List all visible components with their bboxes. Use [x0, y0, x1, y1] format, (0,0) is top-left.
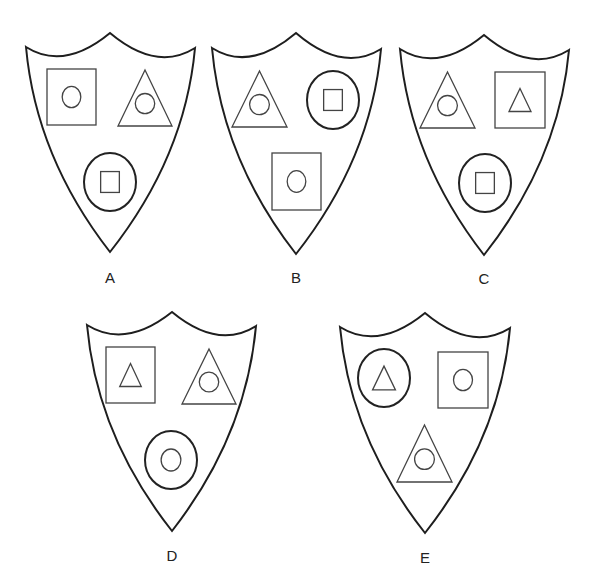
shield-outline: [212, 33, 381, 254]
option-label: B: [291, 269, 301, 286]
shield-outline: [26, 33, 195, 252]
option-label: D: [167, 547, 178, 564]
option-label: A: [105, 269, 115, 286]
shield-outline: [87, 312, 256, 531]
option-label: C: [479, 270, 490, 287]
shield-option-c[interactable]: C: [400, 35, 569, 287]
shield-option-d[interactable]: D: [87, 312, 256, 564]
shield-option-e[interactable]: E: [340, 313, 510, 566]
option-label: E: [420, 549, 430, 566]
shield-option-a[interactable]: A: [26, 33, 195, 286]
shield-figure: ABCDE: [0, 0, 595, 587]
shield-option-b[interactable]: B: [212, 33, 381, 286]
shield-outline: [340, 313, 510, 533]
shield-outline: [400, 35, 569, 255]
